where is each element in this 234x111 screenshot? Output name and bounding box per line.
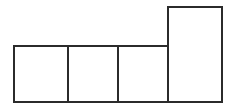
figure-svg: Composite rectilinear figure	[0, 0, 234, 111]
figure-canvas: Composite rectilinear figure	[0, 0, 234, 111]
tall-rectangle	[168, 7, 222, 102]
square-3	[118, 46, 168, 102]
square-2	[68, 46, 118, 102]
square-1	[14, 46, 68, 102]
